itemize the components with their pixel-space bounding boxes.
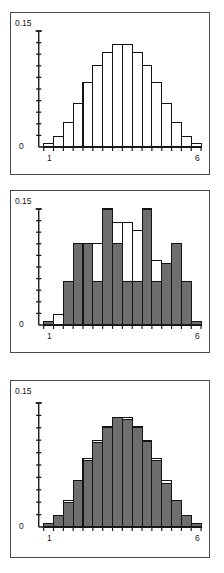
histogram-bar-sample [93, 282, 103, 325]
histogram-bar-sample [132, 428, 142, 527]
chart-panel-2: 0.15 0 1 6 [10, 190, 210, 353]
x-axis-left-label-2: 1 [47, 332, 52, 341]
x-axis-left-label-1: 1 [47, 154, 52, 163]
histogram-bar-theoretical [122, 44, 132, 147]
chart-panel-3: 0.15 0 1 6 [10, 380, 210, 558]
histogram-bar-sample [142, 442, 152, 527]
plot-area-2 [11, 191, 209, 352]
histogram-bar-sample [172, 501, 182, 527]
y-axis-max-label-3: 0.15 [15, 387, 32, 396]
histogram-bar-sample [83, 461, 93, 527]
histogram-bar-sample [63, 282, 73, 325]
histogram-bar-theoretical [152, 83, 162, 147]
histogram-bar-sample [73, 481, 83, 527]
histogram-bar-theoretical [83, 83, 93, 147]
y-axis-max-label-2: 0.15 [15, 197, 32, 206]
histogram-bar-sample [63, 502, 73, 527]
bars-group-1 [44, 44, 201, 147]
histogram-bar-theoretical [93, 66, 103, 147]
histogram-svg-3 [11, 381, 209, 557]
histogram-bar-sample [142, 209, 152, 325]
plot-area-3 [11, 381, 209, 557]
histogram-bar-sample [152, 461, 162, 527]
x-axis-right-label-1: 6 [195, 154, 200, 163]
x-axis-left-label-3: 1 [47, 534, 52, 543]
bars-group-3 [44, 417, 201, 527]
histogram-svg-1 [11, 13, 209, 174]
x-axis-right-label-2: 6 [195, 332, 200, 341]
histogram-bar-sample [172, 244, 182, 325]
histogram-bar-sample [162, 483, 172, 527]
histogram-bar-sample [93, 443, 103, 527]
y-axis-min-label-2: 0 [19, 320, 24, 329]
histogram-bar-theoretical [54, 314, 64, 325]
y-axis-min-label-3: 0 [19, 522, 24, 531]
histogram-bar-sample [152, 282, 162, 325]
bars-group-2 [44, 209, 201, 325]
y-axis-min-label-1: 0 [19, 142, 24, 151]
chart-panel-1: 0.15 0 1 6 [10, 12, 210, 175]
histogram-bar-theoretical [132, 53, 142, 147]
histogram-bar-sample [181, 515, 191, 527]
histogram-bar-theoretical [113, 44, 123, 147]
histogram-bar-sample [113, 244, 123, 325]
x-axis-right-label-3: 6 [195, 534, 200, 543]
histogram-bar-sample [181, 282, 191, 325]
histogram-bar-sample [122, 282, 132, 325]
histogram-bar-sample [132, 282, 142, 325]
histogram-bar-sample [103, 209, 113, 325]
histogram-bar-theoretical [54, 136, 64, 147]
histogram-bar-theoretical [103, 53, 113, 147]
histogram-bar-theoretical [73, 104, 83, 147]
histogram-bar-theoretical [63, 122, 73, 147]
histogram-bar-theoretical [181, 136, 191, 147]
y-axis-max-label-1: 0.15 [15, 19, 32, 28]
histogram-bar-sample [122, 420, 132, 527]
histogram-bar-sample [54, 515, 64, 527]
histogram-bar-theoretical [172, 122, 182, 147]
figure-container: 0.15 0 1 6 0.15 0 1 6 0.15 0 1 6 [0, 0, 224, 573]
histogram-bar-sample [103, 428, 113, 527]
histogram-svg-2 [11, 191, 209, 352]
histogram-bar-theoretical [162, 104, 172, 147]
histogram-bar-theoretical [142, 66, 152, 147]
histogram-bar-sample [73, 244, 83, 325]
histogram-bar-sample [162, 263, 172, 325]
histogram-bar-sample [113, 417, 123, 527]
histogram-bar-sample [83, 244, 93, 325]
plot-area-1 [11, 13, 209, 174]
